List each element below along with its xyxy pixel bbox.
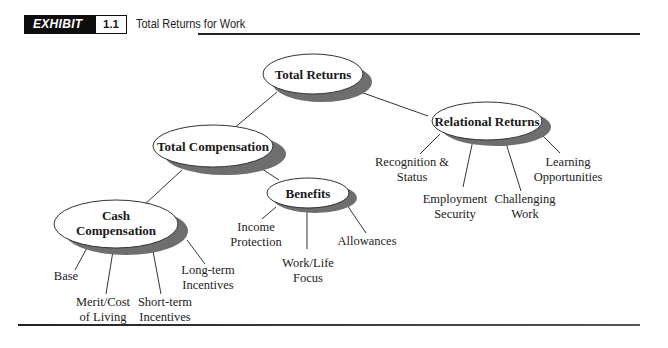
node-label-total-returns: Total Returns — [275, 67, 351, 82]
node-label-relational-returns: Relational Returns — [434, 114, 539, 129]
leaf-work-life-focus: Work/Life Focus — [282, 256, 334, 286]
leaf-allowances: Allowances — [337, 234, 396, 249]
leaf-income-protection: Income Protection — [230, 220, 281, 250]
leaf-base: Base — [54, 269, 78, 284]
leaf-long-term-incentives: Long-term Incentives — [181, 263, 234, 293]
footer-rule — [18, 324, 640, 326]
node-label-cash-compensation: Cash Compensation — [76, 208, 156, 238]
leaf-recognition-status: Recognition & Status — [375, 155, 449, 185]
leaf-short-term-incentives: Short-term Incentives — [138, 295, 192, 325]
leaf-employment-security: Employment Security — [423, 192, 488, 222]
leaf-challenging-work: Challenging Work — [494, 192, 555, 222]
leaf-merit-cost-of-living: Merit/Cost of Living — [76, 295, 130, 325]
node-label-total-compensation: Total Compensation — [157, 139, 269, 154]
leaf-learning-opportunities: Learning Opportunities — [534, 155, 603, 185]
node-label-benefits: Benefits — [286, 186, 331, 201]
